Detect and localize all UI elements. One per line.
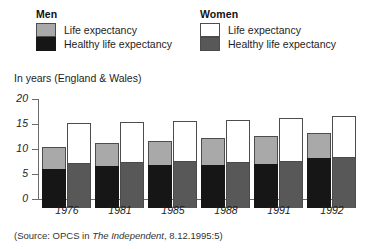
source-prefix: (Source: OPCS in [14,230,92,241]
bar-segment-men-healthy-life-expectancy [42,169,66,209]
y-tick-mark [32,149,38,150]
x-axis-year-label: 1988 [198,204,254,216]
y-tick-mark [32,99,38,100]
bar-men [95,143,119,208]
bar-women [173,121,197,209]
legend-women-item-life-expectancy: Life expectancy [200,23,336,37]
legend-men-label-healthy-life-expectancy: Healthy life expectancy [64,37,172,51]
legend-women: Women Life expectancy Healthy life expec… [200,8,336,51]
bar-women [67,123,91,208]
y-tick-label: 15 [16,117,28,129]
legend-men-label-life-expectancy: Life expectancy [64,23,137,37]
bar-segment-men-healthy-life-expectancy [148,165,172,209]
x-axis-year-label: 1981 [92,204,148,216]
legend-men-title: Men [36,8,172,20]
bar-segment-women-healthy-life-expectancy [120,162,144,208]
bar-segment-women-healthy-life-expectancy [173,161,197,208]
bar-women [120,122,144,209]
y-tick-label: 20 [16,92,28,104]
bar-group [254,108,304,208]
x-axis-year-label: 1976 [39,204,95,216]
bar-segment-women-healthy-life-expectancy [279,161,303,209]
bar-men [254,136,278,209]
legend-men: Men Life expectancy Healthy life expecta… [36,8,172,51]
bar-group [95,108,145,208]
bar-women [332,116,356,208]
bar-men [148,141,172,209]
legend-women-label-life-expectancy: Life expectancy [228,23,301,37]
bar-segment-women-healthy-life-expectancy [226,162,250,209]
bar-group [201,108,251,208]
life-expectancy-bar-chart: Men Life expectancy Healthy life expecta… [0,0,366,249]
source-suffix: , 8.12.1995:5) [164,230,223,241]
y-tick-mark [32,124,38,125]
bar-segment-men-healthy-life-expectancy [95,166,119,209]
legend-swatch-men-healthy-life-expectancy [36,37,56,51]
legend-women-label-healthy-life-expectancy: Healthy life expectancy [228,37,336,51]
bar-segment-men-healthy-life-expectancy [254,164,278,208]
bar-segment-women-healthy-life-expectancy [332,157,356,208]
legend-women-title: Women [200,8,336,20]
x-axis-year-label: 1985 [145,204,201,216]
legend-swatch-women-life-expectancy [200,23,220,37]
y-tick-label: 10 [16,142,28,154]
legend-women-item-healthy-life-expectancy: Healthy life expectancy [200,37,336,51]
y-axis-line [38,99,39,199]
legend-men-item-life-expectancy: Life expectancy [36,23,172,37]
bar-segment-women-healthy-life-expectancy [67,163,91,208]
bar-men [42,147,66,208]
bar-men [307,133,331,208]
bar-segment-men-healthy-life-expectancy [307,158,331,208]
bar-group [148,108,198,208]
bar-women [279,118,303,208]
y-tick-mark [32,199,38,200]
source-publication: The Independent [92,230,164,241]
y-tick-mark [32,174,38,175]
y-axis-caption: In years (England & Wales) [14,72,141,84]
legend-swatch-women-healthy-life-expectancy [200,37,220,51]
y-tick-label: 5 [22,167,28,179]
legend-men-item-healthy-life-expectancy: Healthy life expectancy [36,37,172,51]
bar-women [226,120,250,209]
y-tick-label: 0 [22,192,28,204]
legend-swatch-men-life-expectancy [36,23,56,37]
bar-group [42,108,92,208]
x-axis-year-label: 1991 [251,204,307,216]
source-note: (Source: OPCS in The Independent, 8.12.1… [14,230,223,241]
plot-area: 05101520 197619811985198819911992 [0,92,366,208]
bar-segment-men-healthy-life-expectancy [201,165,225,209]
bar-group [307,108,357,208]
bar-men [201,138,225,208]
x-axis-year-label: 1992 [304,204,360,216]
